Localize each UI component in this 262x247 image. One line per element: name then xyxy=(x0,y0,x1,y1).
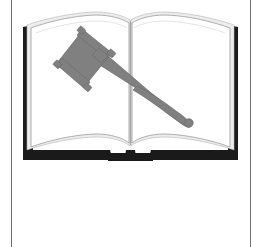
gavel-handle-knob xyxy=(185,119,193,127)
page-root: Gavel on Open Book xyxy=(0,0,262,247)
open-book-group xyxy=(23,12,238,161)
gavel-on-open-book-illustration xyxy=(0,0,262,247)
book-spine-notch xyxy=(112,153,149,161)
right-page xyxy=(132,15,230,147)
